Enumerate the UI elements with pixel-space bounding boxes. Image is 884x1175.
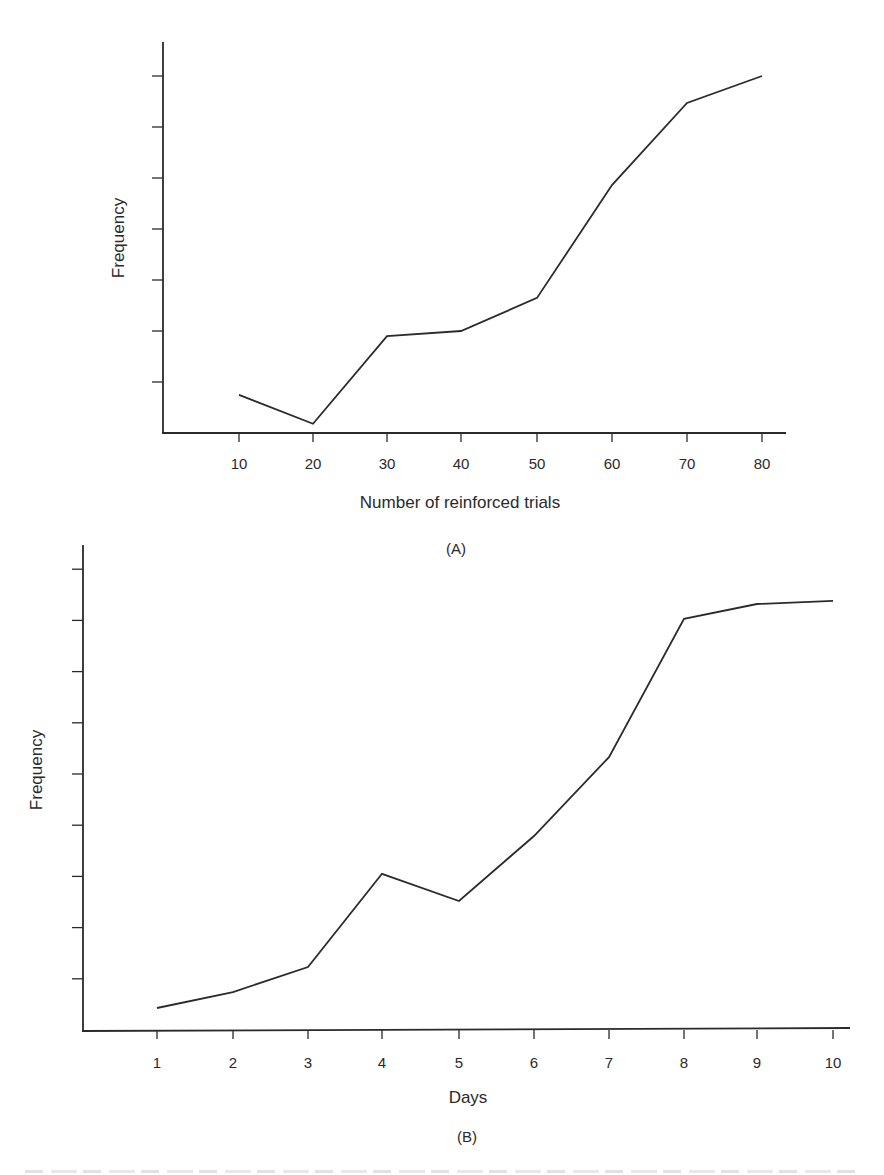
chart-a-data-line <box>239 76 762 424</box>
figure-canvas: 1020304050607080 Frequency Number of rei… <box>0 0 884 1175</box>
chart-b-x-ticks: 12345678910 <box>153 1030 842 1071</box>
x-tick-label: 60 <box>604 455 621 472</box>
chart-b: 12345678910 Frequency Days (B) <box>27 545 850 1145</box>
cutoff-caption-text <box>25 1166 860 1175</box>
chart-a: 1020304050607080 Frequency Number of rei… <box>109 42 786 557</box>
x-tick-label: 1 <box>153 1054 161 1071</box>
chart-b-y-axis-label: Frequency <box>27 729 46 810</box>
x-tick-label: 4 <box>378 1054 386 1071</box>
chart-a-y-ticks <box>152 76 163 382</box>
x-tick-label: 10 <box>231 455 248 472</box>
chart-a-x-axis-label: Number of reinforced trials <box>360 493 560 512</box>
x-tick-label: 3 <box>304 1054 312 1071</box>
x-tick-label: 7 <box>605 1054 613 1071</box>
x-tick-label: 5 <box>455 1054 463 1071</box>
chart-b-panel-label: (B) <box>457 1128 477 1145</box>
x-tick-label: 50 <box>529 455 546 472</box>
chart-b-data-line <box>157 601 833 1008</box>
x-tick-label: 2 <box>229 1054 237 1071</box>
x-tick-label: 9 <box>753 1054 761 1071</box>
x-tick-label: 80 <box>754 455 771 472</box>
x-tick-label: 40 <box>453 455 470 472</box>
chart-a-panel-label: (A) <box>446 540 466 557</box>
chart-b-x-axis <box>82 1028 850 1031</box>
chart-b-y-ticks <box>72 569 83 979</box>
x-tick-label: 30 <box>379 455 396 472</box>
chart-b-x-axis-label: Days <box>449 1088 488 1107</box>
x-tick-label: 70 <box>679 455 696 472</box>
x-tick-label: 6 <box>530 1054 538 1071</box>
x-tick-label: 10 <box>825 1054 842 1071</box>
x-tick-label: 8 <box>680 1054 688 1071</box>
chart-a-y-axis-label: Frequency <box>109 197 128 278</box>
chart-a-x-ticks: 1020304050607080 <box>231 433 771 472</box>
x-tick-label: 20 <box>305 455 322 472</box>
